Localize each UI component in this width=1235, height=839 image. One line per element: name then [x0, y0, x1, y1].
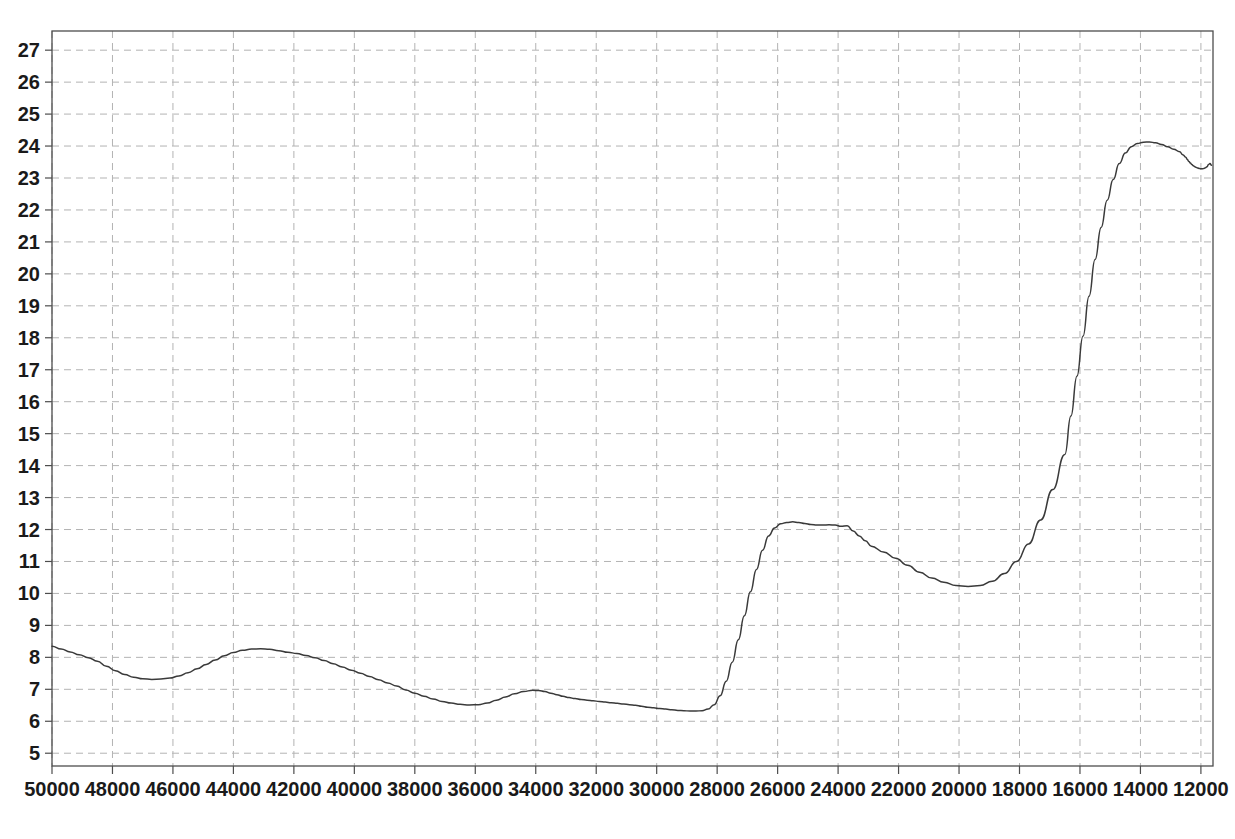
y-tick-label: 7 [0, 679, 40, 699]
chart-background [0, 0, 1235, 839]
y-tick-label: 9 [0, 615, 40, 635]
y-tick-label: 18 [0, 328, 40, 348]
y-tick-label: 22 [0, 200, 40, 220]
x-tick-label: 12000 [1156, 779, 1235, 799]
y-tick-label: 13 [0, 488, 40, 508]
y-tick-label: 26 [0, 72, 40, 92]
y-tick-label: 23 [0, 168, 40, 188]
spectrum-line-chart [0, 0, 1235, 839]
y-tick-label: 12 [0, 520, 40, 540]
y-tick-label: 17 [0, 360, 40, 380]
y-tick-label: 6 [0, 711, 40, 731]
y-tick-label: 15 [0, 424, 40, 444]
y-tick-label: 8 [0, 647, 40, 667]
y-tick-label: 24 [0, 136, 40, 156]
y-tick-label: 5 [0, 743, 40, 763]
chart-figure: 5678910111213141516171819202122232425262… [0, 0, 1235, 839]
y-tick-label: 21 [0, 232, 40, 252]
y-tick-label: 11 [0, 551, 40, 571]
y-tick-label: 10 [0, 583, 40, 603]
y-tick-label: 19 [0, 296, 40, 316]
y-tick-label: 14 [0, 456, 40, 476]
y-tick-label: 25 [0, 104, 40, 124]
y-tick-label: 20 [0, 264, 40, 284]
y-tick-label: 16 [0, 392, 40, 412]
y-tick-label: 27 [0, 40, 40, 60]
